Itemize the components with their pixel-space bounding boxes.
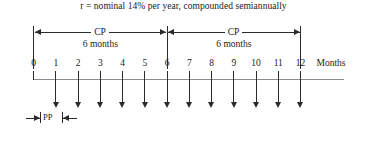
axis-tick-label-3: 3 bbox=[88, 58, 112, 69]
axis-tick-label-10: 10 bbox=[244, 58, 268, 69]
axis-title: Months bbox=[317, 58, 346, 69]
axis-tick-2 bbox=[78, 71, 79, 80]
payment-arrow-head-8 bbox=[208, 102, 214, 108]
axis-tick-label-0: 0 bbox=[22, 58, 46, 69]
payment-arrow-head-4 bbox=[119, 102, 125, 108]
payment-arrow-head-5 bbox=[142, 102, 148, 108]
axis-tick-label-8: 8 bbox=[200, 58, 224, 69]
compounding-period-2: CP6 months bbox=[0, 26, 367, 52]
pp-label: PP bbox=[43, 112, 52, 123]
axis-tick-label-4: 4 bbox=[111, 58, 135, 69]
payment-arrow-head-12 bbox=[297, 102, 303, 108]
axis-tick-5 bbox=[144, 71, 145, 80]
payment-arrow-shaft-11 bbox=[278, 80, 279, 102]
payment-arrow-head-7 bbox=[186, 102, 192, 108]
cp-label-2: CP bbox=[225, 26, 243, 38]
payment-arrow-head-2 bbox=[75, 102, 81, 108]
axis-tick-11 bbox=[278, 71, 279, 80]
axis-tick-label-7: 7 bbox=[177, 58, 201, 69]
axis-tick-label-11: 11 bbox=[266, 58, 290, 69]
cp-arrow-left-2 bbox=[168, 29, 174, 35]
axis-tick-3 bbox=[100, 71, 101, 80]
payment-arrow-shaft-10 bbox=[256, 80, 257, 102]
payment-arrow-shaft-2 bbox=[78, 80, 79, 102]
payment-arrow-shaft-3 bbox=[100, 80, 101, 102]
cp-arrow-right-2 bbox=[294, 29, 300, 35]
axis-tick-label-5: 5 bbox=[133, 58, 157, 69]
payment-arrow-shaft-8 bbox=[211, 80, 212, 102]
axis-tick-10 bbox=[256, 71, 257, 80]
payment-arrow-head-1 bbox=[53, 102, 59, 108]
payment-arrow-shaft-4 bbox=[122, 80, 123, 102]
payment-arrow-head-9 bbox=[231, 102, 237, 108]
cp-sublabel-2: 6 months bbox=[216, 38, 251, 50]
payment-arrow-shaft-7 bbox=[189, 80, 190, 102]
pp-left-arrowhead bbox=[34, 115, 40, 121]
payment-arrow-shaft-1 bbox=[55, 80, 56, 102]
axis-tick-1 bbox=[55, 71, 56, 80]
axis-tick-label-12: 12 bbox=[289, 58, 313, 69]
axis-tick-label-2: 2 bbox=[66, 58, 90, 69]
payment-arrow-head-6 bbox=[164, 102, 170, 108]
payment-arrow-head-3 bbox=[97, 102, 103, 108]
axis-tick-6 bbox=[167, 71, 168, 80]
axis-tick-label-9: 9 bbox=[222, 58, 246, 69]
payment-arrow-head-11 bbox=[275, 102, 281, 108]
axis-tick-4 bbox=[122, 71, 123, 80]
payment-arrow-shaft-6 bbox=[167, 80, 168, 102]
axis-tick-label-6: 6 bbox=[155, 58, 179, 69]
nominal-rate-statement: r = nominal 14% per year, compounded sem… bbox=[0, 1, 367, 11]
axis-tick-9 bbox=[233, 71, 234, 80]
pp-right-arrowhead bbox=[63, 115, 69, 121]
cash-flow-diagram: r = nominal 14% per year, compounded sem… bbox=[0, 0, 367, 146]
payment-arrow-shaft-12 bbox=[300, 80, 301, 102]
axis-tick-7 bbox=[189, 71, 190, 80]
payment-arrow-shaft-5 bbox=[144, 80, 145, 102]
axis-tick-12 bbox=[300, 71, 301, 80]
payment-arrow-shaft-9 bbox=[233, 80, 234, 102]
axis-tick-8 bbox=[211, 71, 212, 80]
axis-tick-label-1: 1 bbox=[44, 58, 68, 69]
payment-arrow-head-10 bbox=[253, 102, 259, 108]
axis-tick-0 bbox=[33, 71, 34, 80]
